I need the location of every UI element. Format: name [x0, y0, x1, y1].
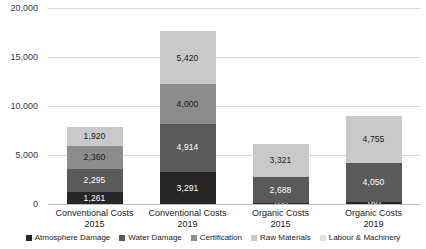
- bar-segment: 2,295: [67, 169, 123, 191]
- category-label-line1: Organic Costs: [345, 208, 402, 218]
- y-axis-tick-label: 15,000: [0, 52, 38, 62]
- bar-value-label: 100: [273, 203, 287, 204]
- category-label-line1: Conventional Costs: [55, 208, 133, 218]
- bar-segment: 5,420: [160, 31, 216, 84]
- category-label-line2: 2015: [48, 219, 141, 230]
- legend-item[interactable]: Raw Materials: [251, 233, 311, 242]
- bar-value-label: 160: [366, 202, 380, 204]
- bar-series-container: 1,9202,3602,2951,2615,4204,0004,9143,291…: [48, 8, 420, 204]
- category-label-line1: Organic Costs: [252, 208, 309, 218]
- bar-group: 3,3212,688100: [253, 144, 309, 204]
- y-axis-tick-label: 0: [0, 199, 38, 209]
- legend-swatch-icon: [26, 235, 32, 241]
- bar-segment: 3,291: [160, 172, 216, 204]
- legend-label: Water Damage: [128, 233, 182, 242]
- legend-item[interactable]: Atmosphere Damage: [26, 233, 111, 242]
- legend-swatch-icon: [119, 235, 125, 241]
- legend-item[interactable]: Certification: [191, 233, 242, 242]
- bar-value-label: 4,000: [177, 100, 199, 109]
- bar-value-label: 4,050: [363, 178, 385, 187]
- bar-value-label: 3,321: [270, 156, 292, 165]
- legend-item[interactable]: Labour & Machinery: [320, 233, 401, 242]
- bar-segment: 4,755: [346, 116, 402, 163]
- bar-segment: 100: [253, 203, 309, 204]
- y-axis-tick-label: 20,000: [0, 3, 38, 13]
- bar-segment: 160: [346, 202, 402, 204]
- bar-group: 4,7554,050160: [346, 116, 402, 204]
- legend-item[interactable]: Water Damage: [119, 233, 182, 242]
- bar-value-label: 2,360: [84, 153, 106, 162]
- y-axis-tick-label: 10,000: [0, 101, 38, 111]
- bar-value-label: 1,261: [84, 194, 106, 203]
- legend-swatch-icon: [191, 235, 197, 241]
- bar-value-label: 4,914: [177, 143, 199, 152]
- bar-group: 1,9202,3602,2951,261: [67, 127, 123, 204]
- legend-swatch-icon: [251, 235, 257, 241]
- category-label-line2: 2019: [327, 219, 420, 230]
- x-axis-category-label: Conventional Costs2015: [48, 208, 141, 230]
- legend-label: Atmosphere Damage: [35, 233, 111, 242]
- bar-segment: 4,914: [160, 124, 216, 172]
- plot-area: 05,00010,00015,00020,000 1,9202,3602,295…: [48, 8, 420, 204]
- x-axis-category-label: Conventional Costs2019: [141, 208, 234, 230]
- y-axis-tick-label: 5,000: [0, 150, 38, 160]
- bar-segment: 4,050: [346, 163, 402, 203]
- bar-segment: 2,688: [253, 177, 309, 203]
- bar-value-label: 5,420: [177, 54, 199, 63]
- category-label-line2: 2015: [234, 219, 327, 230]
- bar-value-label: 1,920: [84, 132, 106, 141]
- legend-label: Certification: [200, 233, 242, 242]
- legend-label: Raw Materials: [260, 233, 311, 242]
- chart-legend: Atmosphere DamageWater DamageCertificati…: [0, 233, 426, 242]
- bar-segment: 1,261: [67, 192, 123, 204]
- gridline: [48, 204, 420, 205]
- bar-value-label: 2,688: [270, 186, 292, 195]
- x-axis-category-label: Organic Costs2015: [234, 208, 327, 230]
- bar-segment: 2,360: [67, 146, 123, 169]
- bar-value-label: 4,755: [363, 135, 385, 144]
- bar-segment: 3,321: [253, 144, 309, 177]
- stacked-bar-chart: 05,00010,00015,00020,000 1,9202,3602,295…: [0, 0, 426, 249]
- bar-segment: 1,920: [67, 127, 123, 146]
- category-label-line1: Conventional Costs: [148, 208, 226, 218]
- bar-value-label: 2,295: [84, 176, 106, 185]
- x-axis-category-label: Organic Costs2019: [327, 208, 420, 230]
- legend-label: Labour & Machinery: [329, 233, 401, 242]
- legend-swatch-icon: [320, 235, 326, 241]
- bar-value-label: 3,291: [177, 184, 199, 193]
- bar-group: 5,4204,0004,9143,291: [160, 31, 216, 204]
- bar-segment: 4,000: [160, 84, 216, 123]
- category-label-line2: 2019: [141, 219, 234, 230]
